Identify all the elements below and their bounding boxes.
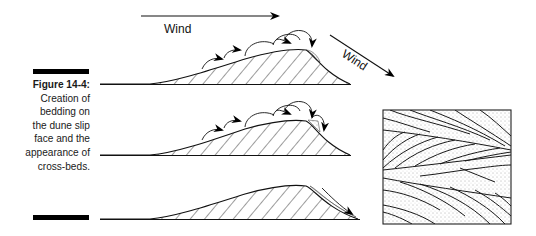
- dune-2: [100, 101, 351, 155]
- dune-1: [100, 30, 351, 84]
- dune-3: [100, 185, 360, 219]
- dune-diagram: Wind Wind: [0, 0, 536, 236]
- wind-label-diagonal: Wind: [339, 47, 370, 74]
- cross-bed-block: [383, 110, 511, 224]
- wind-label-top: Wind: [164, 22, 191, 36]
